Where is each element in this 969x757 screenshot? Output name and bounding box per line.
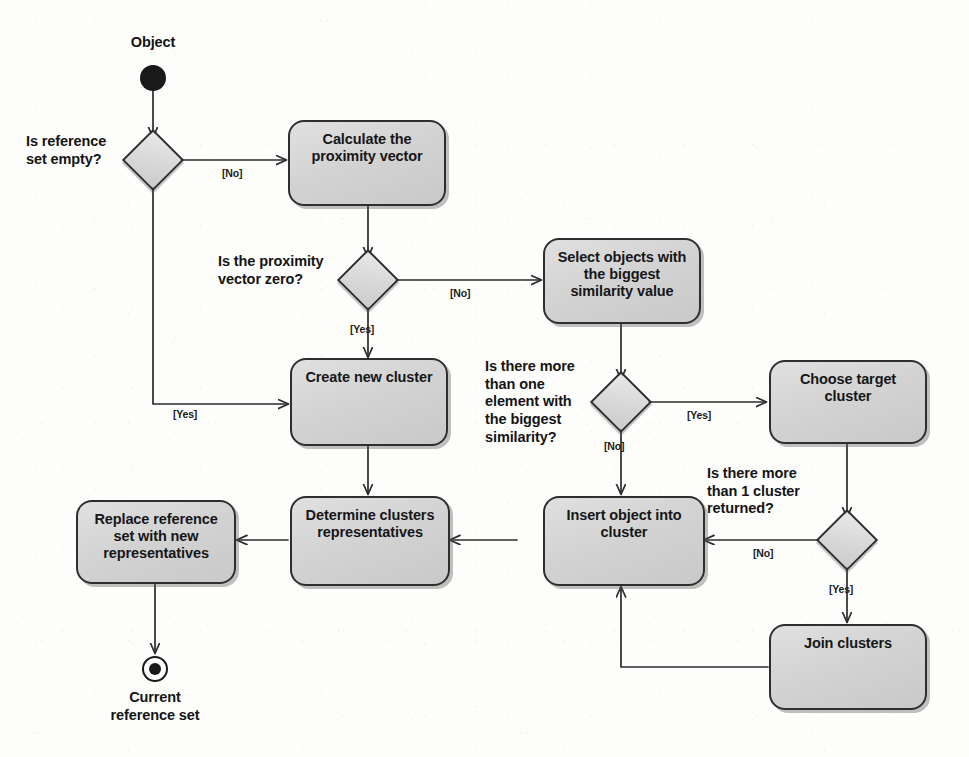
edge-join-to-insert xyxy=(621,587,768,667)
action-join-clusters[interactable]: Join clusters xyxy=(769,624,927,710)
action-select-objects-biggest-similarity[interactable]: Select objects with the biggest similari… xyxy=(543,238,701,324)
decision-label-more-than-one-element: Is there more than one element with the … xyxy=(485,358,599,446)
guard-d1-yes: [Yes] xyxy=(173,408,197,420)
final-node xyxy=(142,656,168,682)
action-label-insert-object-into-cluster: Insert object into cluster xyxy=(559,507,688,541)
guard-d1-no: [No] xyxy=(222,167,242,179)
initial-node-label: Object xyxy=(103,34,203,52)
guard-d2-yes: [Yes] xyxy=(350,323,374,335)
action-label-create-new-cluster: Create new cluster xyxy=(298,369,439,386)
action-label-calculate-proximity-vector: Calculate the proximity vector xyxy=(304,131,429,165)
action-calculate-proximity-vector[interactable]: Calculate the proximity vector xyxy=(288,120,446,206)
guard-d2-no: [No] xyxy=(450,287,470,299)
final-node-label: Current reference set xyxy=(95,689,215,724)
guard-d3-no: [No] xyxy=(604,440,624,452)
action-label-replace-reference-set: Replace reference set with new represent… xyxy=(87,511,224,562)
action-determine-clusters-representatives[interactable]: Determine clusters representatives xyxy=(290,496,450,586)
edge-d1-yes-to-create xyxy=(153,183,288,404)
decision-label-is-proximity-vector-zero: Is the proximity vector zero? xyxy=(218,253,346,288)
action-label-select-objects-biggest-similarity: Select objects with the biggest similari… xyxy=(551,249,694,300)
action-choose-target-cluster[interactable]: Choose target cluster xyxy=(769,360,927,444)
guard-d4-no: [No] xyxy=(753,547,773,559)
action-create-new-cluster[interactable]: Create new cluster xyxy=(290,358,448,446)
decision-label-more-than-one-cluster-returned: Is there more than 1 cluster returned? xyxy=(707,465,827,518)
action-label-choose-target-cluster: Choose target cluster xyxy=(793,371,903,405)
guard-d4-yes: [Yes] xyxy=(829,583,853,595)
action-label-determine-clusters-representatives: Determine clusters representatives xyxy=(299,507,442,541)
guard-d3-yes: [Yes] xyxy=(687,409,711,421)
initial-node xyxy=(140,65,166,91)
action-insert-object-into-cluster[interactable]: Insert object into cluster xyxy=(543,496,705,586)
decision-label-is-reference-set-empty: Is reference set empty? xyxy=(26,133,136,168)
activity-diagram-canvas: Object Is reference set empty? Is the pr… xyxy=(0,0,969,757)
action-replace-reference-set[interactable]: Replace reference set with new represent… xyxy=(76,500,236,584)
action-label-join-clusters: Join clusters xyxy=(797,635,899,652)
